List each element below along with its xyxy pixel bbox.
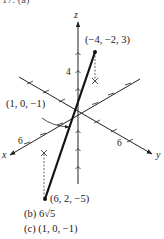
answer-b-part: (b): [24, 208, 36, 219]
point-lower-dot: [43, 197, 47, 201]
projection-lower: [41, 150, 47, 198]
y-axis: [19, 77, 152, 154]
answer-c: (c) (1, 0, −1): [24, 224, 77, 235]
y-axis-label: y: [156, 150, 160, 160]
point-label-lower: (6, 2, −5): [50, 194, 89, 205]
answer-c-part: (c): [24, 223, 36, 234]
y-tick-label: 6: [117, 139, 122, 149]
x-tick-label: 6: [18, 137, 23, 147]
z-tick-label: 4: [66, 68, 71, 78]
x-axis-label: x: [2, 150, 6, 160]
point-label-midpoint: (1, 0, −1): [6, 99, 45, 110]
answer-b-value: 6√5: [39, 208, 55, 219]
point-upper-dot: [93, 50, 97, 54]
answer-b: (b) 6√5: [24, 209, 55, 220]
z-axis-label: z: [74, 10, 78, 20]
answer-c-value: (1, 0, −1): [38, 223, 77, 234]
point-label-upper: (−4, −2, 3): [85, 35, 130, 46]
